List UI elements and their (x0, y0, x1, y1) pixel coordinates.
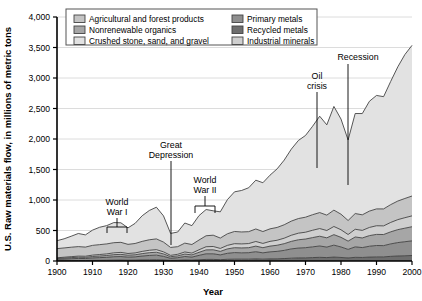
legend-swatch-nonrenewable-organics (74, 26, 85, 34)
legend-swatch-primary-metals (232, 15, 243, 23)
chart-legend: Agricultural and forest productsNonrenew… (66, 9, 317, 46)
annotation-world-war-i-line2: War I (107, 207, 128, 217)
legend-swatch-recycled-metals (232, 26, 243, 34)
y-tick-label-3000: 3,000 (28, 73, 50, 83)
x-tick-label-1910: 1910 (83, 267, 102, 277)
annotation-world-war-ii-line1: World (194, 175, 217, 185)
annotation-oil-crisis-line1: Oil (312, 71, 323, 81)
y-tick-label-0: 0 (45, 256, 50, 266)
legend-label-recycled-metals: Recycled metals (247, 25, 308, 35)
y-tick-label-500: 500 (36, 226, 51, 236)
legend-label-agricultural-and-forest-products: Agricultural and forest products (89, 14, 204, 24)
x-tick-label-1960: 1960 (260, 267, 279, 277)
y-tick-label-1000: 1,000 (28, 195, 50, 205)
y-axis-ticks: 05001,0001,5002,0002,5003,0003,5004,000 (28, 12, 57, 266)
x-tick-label-1950: 1950 (225, 267, 244, 277)
x-tick-label-1900: 1900 (47, 267, 66, 277)
legend-swatch-agricultural-and-forest-products (74, 15, 85, 23)
y-tick-label-1500: 1,500 (28, 165, 50, 175)
annotation-world-war-ii-line2: War II (193, 185, 216, 195)
y-axis-title: U.S. Raw materials flow, in millions of … (2, 27, 13, 251)
x-axis-ticks: 1900191019201930194019501960197019801990… (47, 261, 421, 277)
annotation-world-war-i-line1: World (106, 197, 129, 207)
x-tick-label-1990: 1990 (367, 267, 386, 277)
chart-container: 05001,0001,5002,0002,5003,0003,5004,000 … (0, 0, 422, 301)
x-tick-label-1930: 1930 (154, 267, 173, 277)
x-tick-label-1940: 1940 (189, 267, 208, 277)
raw-materials-flow-area-chart: 05001,0001,5002,0002,5003,0003,5004,000 … (0, 0, 422, 301)
legend-swatch-industrial-minerals (232, 37, 243, 45)
legend-label-industrial-minerals: Industrial minerals (247, 36, 314, 46)
annotation-recession-line1: Recession (337, 52, 378, 62)
legend-label-crushed-stone-sand-and-gravel: Crushed stone, sand, and gravel (89, 36, 209, 46)
annotation-great-depression-line2: Depression (149, 150, 194, 160)
legend-swatch-crushed-stone-sand-and-gravel (74, 37, 85, 45)
y-tick-label-3500: 3,500 (28, 43, 50, 53)
y-tick-label-2500: 2,500 (28, 104, 50, 114)
annotation-oil-crisis-line2: crisis (307, 81, 328, 91)
legend-label-nonrenewable-organics: Nonrenewable organics (89, 25, 176, 35)
x-tick-label-2000: 2000 (402, 267, 421, 277)
x-tick-label-1980: 1980 (331, 267, 350, 277)
y-tick-label-2000: 2,000 (28, 134, 50, 144)
y-tick-label-4000: 4,000 (28, 12, 50, 22)
x-tick-label-1970: 1970 (296, 267, 315, 277)
x-tick-label-1920: 1920 (118, 267, 137, 277)
legend-label-primary-metals: Primary metals (247, 14, 302, 24)
annotation-great-depression-line1: Great (160, 140, 183, 150)
x-axis-title: Year (203, 286, 223, 297)
